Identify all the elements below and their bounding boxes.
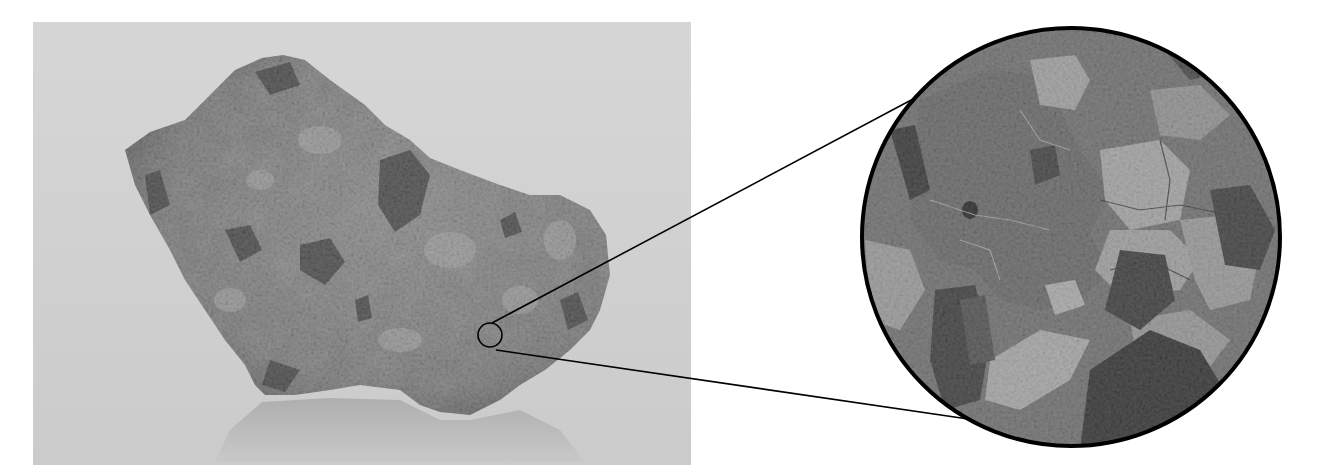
figure-graphics — [0, 0, 1320, 472]
rock-specimen — [120, 50, 620, 420]
rock-reflection — [215, 398, 585, 462]
figure: Rock specimen Sampled area Magnified thi… — [0, 0, 1320, 472]
